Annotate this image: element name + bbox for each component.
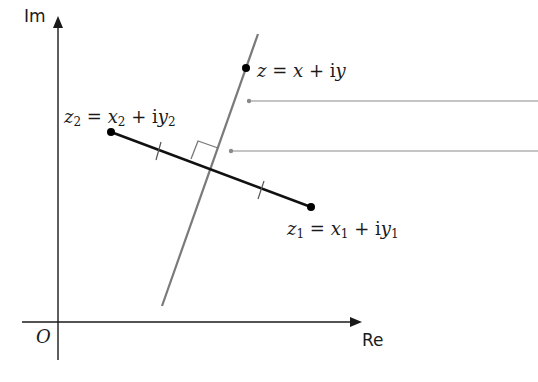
leader-dot-bottom bbox=[229, 149, 233, 153]
eq-sign: = bbox=[87, 106, 102, 127]
x2-var: x bbox=[108, 106, 118, 127]
imaginary-axis-arrow-icon bbox=[53, 16, 63, 28]
z1-sub: 1 bbox=[296, 227, 304, 241]
x2-sub: 2 bbox=[118, 115, 126, 129]
x1-sub: 1 bbox=[341, 227, 349, 241]
segment-z1-z2 bbox=[111, 132, 311, 207]
x-var: x bbox=[293, 60, 303, 81]
plus-sign: + bbox=[309, 60, 324, 81]
label-z: z = x + iy bbox=[257, 60, 346, 81]
plus-sign: + bbox=[131, 106, 146, 127]
y1-sub: 1 bbox=[391, 227, 399, 241]
z-var: z bbox=[257, 60, 266, 81]
eq-sign: = bbox=[310, 218, 325, 239]
diagram-canvas bbox=[0, 0, 538, 382]
y2-var: y bbox=[158, 106, 168, 127]
imaginary-axis-label: Im bbox=[24, 6, 46, 26]
plus-sign: + bbox=[354, 218, 369, 239]
point-z2 bbox=[107, 128, 115, 136]
label-z1: z1 = x1 + iy1 bbox=[287, 218, 399, 239]
point-z1 bbox=[307, 203, 315, 211]
eq-sign: = bbox=[272, 60, 287, 81]
real-axis-label: Re bbox=[362, 330, 384, 350]
real-axis-arrow-icon bbox=[350, 317, 362, 327]
origin-label: O bbox=[36, 326, 51, 347]
y-var: y bbox=[336, 60, 346, 81]
z2-sub: 2 bbox=[73, 115, 81, 129]
x1-var: x bbox=[331, 218, 341, 239]
label-z2: z2 = x2 + iy2 bbox=[64, 106, 176, 127]
origin-letter: O bbox=[36, 326, 51, 347]
y2-sub: 2 bbox=[168, 115, 176, 129]
y1-var: y bbox=[381, 218, 391, 239]
point-z bbox=[242, 64, 250, 72]
leader-dot-top bbox=[247, 99, 251, 103]
